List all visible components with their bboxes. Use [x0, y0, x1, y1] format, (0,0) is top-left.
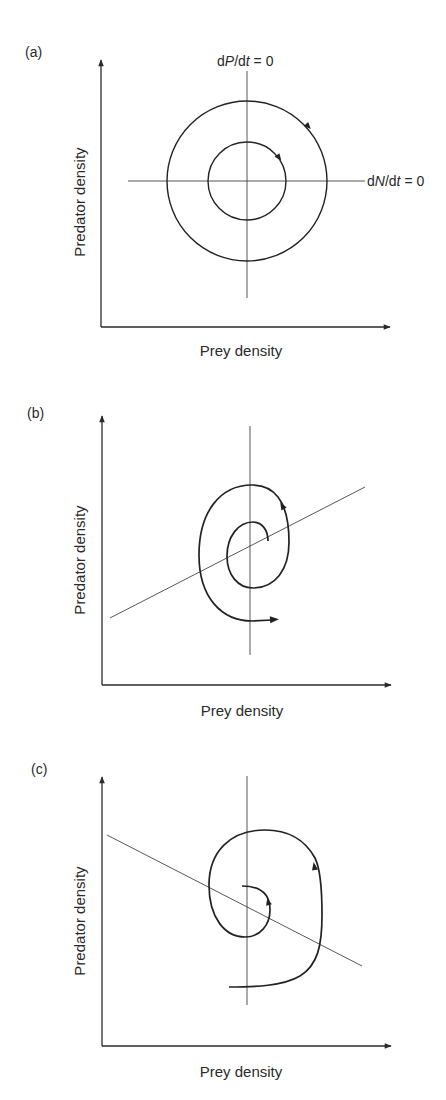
panel-label-a: (a) — [25, 44, 42, 60]
x-axis-label-c: Prey density — [200, 1063, 283, 1080]
y-axis-label-a: Predator density — [71, 147, 88, 257]
y-axis-label-b: Predator density — [71, 505, 88, 615]
spiral-end-arrow-icon — [270, 616, 279, 623]
panel-c: (c) Predator density Prey density — [31, 761, 391, 1080]
panel-label-c: (c) — [31, 761, 47, 777]
x-axis-label-a: Prey density — [200, 342, 283, 359]
phase-plane-figure: (a) Predator density Prey density dP/dt … — [0, 0, 446, 1100]
panel-b: (b) Predator density Prey density — [27, 405, 391, 719]
x-axis-label-b: Prey density — [201, 702, 284, 719]
predator-nullcline-label: dP/dt = 0 — [217, 53, 274, 69]
diverging-spiral — [199, 485, 289, 621]
prey-nullcline-b — [110, 487, 365, 618]
prey-nullcline-label: dN/dt = 0 — [367, 173, 424, 189]
panel-a: (a) Predator density Prey density dP/dt … — [25, 44, 424, 359]
panel-label-b: (b) — [27, 405, 44, 421]
prey-nullcline-c — [107, 835, 362, 966]
y-axis-label-c: Predator density — [71, 866, 88, 976]
converging-spiral — [209, 830, 322, 987]
